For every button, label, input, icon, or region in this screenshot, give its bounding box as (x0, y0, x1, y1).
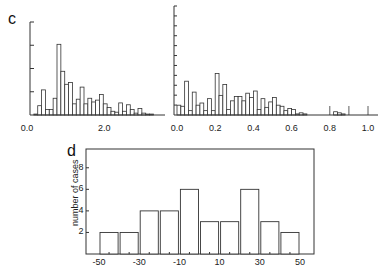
y-axis-label-d: number of cases (70, 159, 80, 226)
histogram-bar (241, 189, 259, 254)
histogram-bar (180, 189, 198, 254)
histogram-bar (200, 103, 204, 115)
histogram-bar (45, 109, 49, 115)
histogram-bar (221, 222, 239, 254)
histogram-bar (181, 106, 185, 115)
histogram-bar (281, 232, 299, 254)
x-tick-label: 0.0 (21, 123, 34, 133)
x-tick-label: 0.2 (209, 123, 222, 133)
histogram-bar (265, 107, 269, 115)
histogram-bar (120, 232, 138, 254)
histogram-bar (201, 222, 219, 254)
histogram-bar (284, 111, 288, 115)
histogram-bar (204, 111, 208, 115)
histogram-bar (57, 44, 61, 115)
histogram-bar (177, 105, 181, 115)
histogram-bar (253, 91, 257, 115)
histogram-bar (269, 102, 273, 115)
histogram-bar (72, 104, 76, 115)
histogram-bar (99, 95, 103, 115)
histogram-bar (257, 110, 261, 115)
histogram-bar (126, 105, 130, 115)
y-tick-label: 2 (78, 226, 83, 236)
x-tick-label: -30 (133, 257, 146, 267)
x-tick-label: -50 (92, 257, 105, 267)
histogram-bar (246, 93, 250, 115)
histogram-bar (76, 99, 80, 115)
histogram-bar (53, 98, 57, 115)
x-tick-label: 0.8 (324, 123, 337, 133)
histogram-bar (227, 110, 231, 115)
histogram-bar (261, 99, 265, 115)
histogram-bar (130, 109, 134, 115)
histogram-bar (61, 71, 65, 115)
histogram-bar (234, 96, 238, 115)
x-tick-label: 2.0 (98, 123, 111, 133)
histogram-bar (223, 84, 227, 115)
histogram-bar (192, 92, 196, 115)
histogram-bar (292, 110, 296, 115)
histogram-bar (188, 111, 192, 115)
histogram-bar (242, 101, 246, 115)
histogram-bar (273, 98, 277, 115)
histogram-bar (238, 96, 242, 115)
histogram-bar (185, 81, 189, 115)
x-tick-label: 10 (215, 257, 225, 267)
histogram-bar (288, 108, 292, 115)
histogram-bar (140, 211, 158, 254)
histogram-bar (49, 109, 53, 115)
x-tick-label: 1.0 (362, 123, 375, 133)
histogram-bar (208, 99, 212, 115)
histogram-bar (100, 232, 118, 254)
histogram-bar (96, 100, 100, 115)
histogram-bar (65, 84, 69, 115)
x-tick-label: 50 (295, 257, 305, 267)
x-tick-label: 0.6 (285, 123, 298, 133)
histogram-bar (261, 222, 279, 254)
histogram-bar (215, 74, 219, 115)
histogram-bar (42, 90, 46, 115)
x-tick-label: 0.4 (247, 123, 260, 133)
histogram-bar (219, 95, 223, 115)
histogram-bar (69, 82, 73, 115)
histogram-bar (92, 102, 96, 115)
histogram-bar (38, 106, 42, 115)
histogram-bar (230, 101, 234, 115)
histogram-bar (80, 87, 84, 115)
histogram-bar (196, 105, 200, 115)
histogram-bar (107, 108, 111, 115)
histogram-bar (84, 104, 88, 115)
histogram-bar (123, 111, 127, 115)
x-tick-label: -10 (173, 257, 186, 267)
histogram-bar (138, 108, 142, 115)
histogram-bar (160, 211, 178, 254)
histogram-bar (119, 103, 123, 115)
histogram-bar (88, 98, 92, 115)
x-tick-label: 30 (255, 257, 265, 267)
x-tick-label: 0.0 (171, 123, 184, 133)
histogram-bar (280, 106, 284, 115)
figure-canvas (0, 0, 380, 272)
histogram-bar (250, 98, 254, 115)
histogram-bar (276, 105, 280, 115)
histogram-bar (103, 104, 107, 115)
histogram-bar (111, 111, 115, 115)
histogram-bar (211, 111, 215, 115)
